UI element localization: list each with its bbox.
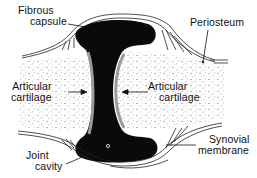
joint-cavity-line2: cavity <box>26 161 62 172</box>
label-fibrous-capsule: Fibrous capsule <box>18 5 67 27</box>
label-joint-cavity: Joint cavity <box>26 150 62 172</box>
periosteum-line1: Periosteum <box>190 17 244 28</box>
label-articular-cartilage-left: Articular cartilage <box>11 81 52 103</box>
label-articular-cartilage-right: Articular cartilage <box>148 81 200 103</box>
fibrous-capsule-line2: capsule <box>18 16 67 27</box>
synovial-membrane-line2: membrane <box>198 145 250 156</box>
label-synovial-membrane: Synovial membrane <box>198 134 250 156</box>
label-periosteum: Periosteum <box>190 17 244 28</box>
articular-cartilage-right-line2: cartilage <box>148 92 200 103</box>
articular-cartilage-left-line2: cartilage <box>11 92 52 103</box>
